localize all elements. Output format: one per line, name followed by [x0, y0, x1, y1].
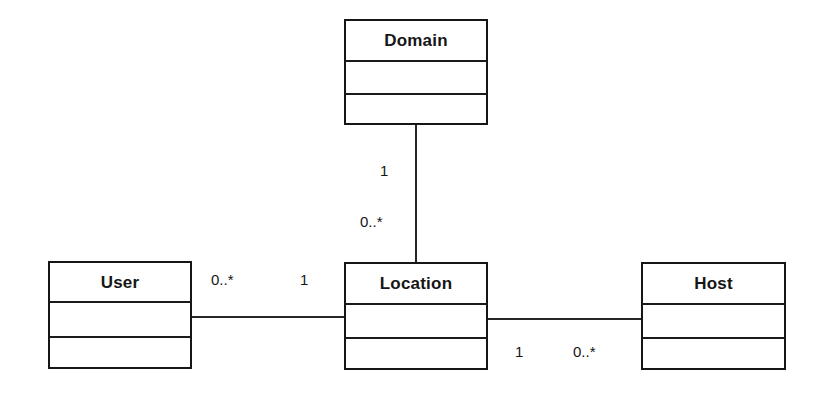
multiplicity-label-location-right-end: 1: [515, 344, 523, 359]
multiplicity-label-user-end: 0..*: [211, 272, 234, 287]
class-name-label: User: [101, 274, 140, 291]
class-attributes-compartment: [643, 305, 784, 339]
association-line-domain-location: [415, 125, 417, 262]
multiplicity-label-host-end: 0..*: [573, 344, 596, 359]
multiplicity-label-location-left-end: 1: [300, 272, 308, 287]
class-operations-compartment: [346, 95, 486, 127]
multiplicity-label-location-top-end: 0..*: [360, 214, 383, 229]
class-name-compartment: User: [50, 263, 190, 303]
uml-class-diagram-canvas: Domain User Location Host 1 0..* 0..* 1 …: [0, 0, 819, 393]
class-name-compartment: Domain: [346, 21, 486, 62]
class-attributes-compartment: [346, 305, 486, 339]
uml-class-domain[interactable]: Domain: [344, 19, 488, 125]
class-operations-compartment: [346, 339, 486, 372]
class-name-label: Location: [380, 275, 452, 292]
class-operations-compartment: [50, 338, 190, 371]
multiplicity-label-domain-end: 1: [380, 163, 388, 178]
association-line-location-host: [488, 318, 641, 320]
class-operations-compartment: [643, 339, 784, 372]
class-attributes-compartment: [346, 62, 486, 95]
uml-class-location[interactable]: Location: [344, 262, 488, 370]
class-attributes-compartment: [50, 303, 190, 338]
uml-class-user[interactable]: User: [48, 261, 192, 369]
association-line-user-location: [192, 316, 344, 318]
class-name-compartment: Location: [346, 264, 486, 305]
uml-class-host[interactable]: Host: [641, 262, 786, 370]
class-name-compartment: Host: [643, 264, 784, 305]
class-name-label: Domain: [384, 32, 448, 49]
class-name-label: Host: [694, 275, 733, 292]
